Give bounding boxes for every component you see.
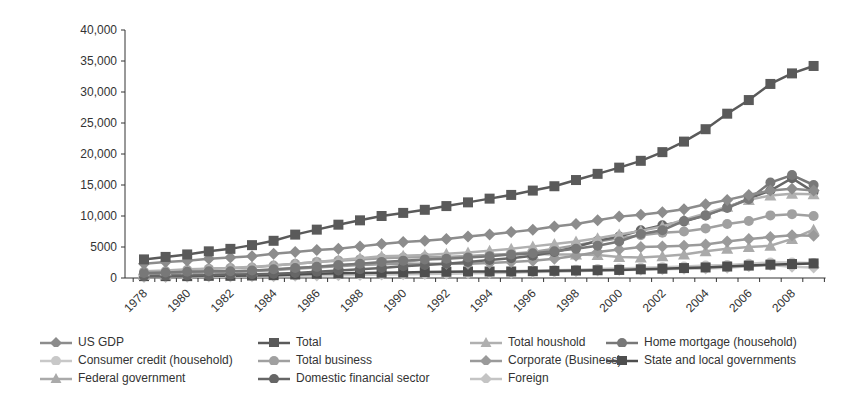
x-tick-label: 1988 <box>337 286 366 315</box>
x-axis: 1978198019821984198619881990199219941996… <box>121 278 825 315</box>
series-total <box>139 61 819 264</box>
x-tick-label: 1980 <box>165 286 194 315</box>
x-tick-label: 1982 <box>208 286 237 315</box>
x-tick-label: 2008 <box>769 286 798 315</box>
x-tick-label: 1996 <box>510 286 539 315</box>
x-tick-label: 1986 <box>294 286 323 315</box>
x-tick-label: 1998 <box>553 286 582 315</box>
x-tick-label: 1990 <box>381 286 410 315</box>
series-group <box>138 61 820 283</box>
x-tick-label: 1994 <box>467 286 496 315</box>
y-tick-label: 25,000 <box>80 116 117 130</box>
y-tick-label: 35,000 <box>80 54 117 68</box>
line-chart: 0500010,00015,00020,00025,00030,00035,00… <box>0 0 868 399</box>
x-tick-label: 2004 <box>683 286 712 315</box>
y-tick-label: 5000 <box>90 240 117 254</box>
y-tick-label: 10,000 <box>80 209 117 223</box>
y-tick-label: 40,000 <box>80 23 117 37</box>
y-axis: 0500010,00015,00020,00025,00030,00035,00… <box>80 23 125 285</box>
y-tick-label: 0 <box>110 271 117 285</box>
x-tick-label: 2002 <box>640 286 669 315</box>
y-tick-label: 15,000 <box>80 178 117 192</box>
x-tick-label: 1984 <box>251 286 280 315</box>
x-tick-label: 1978 <box>121 286 150 315</box>
y-tick-label: 30,000 <box>80 85 117 99</box>
x-tick-label: 2006 <box>726 286 755 315</box>
x-tick-label: 2000 <box>597 286 626 315</box>
x-tick-label: 1992 <box>424 286 453 315</box>
y-tick-label: 20,000 <box>80 147 117 161</box>
